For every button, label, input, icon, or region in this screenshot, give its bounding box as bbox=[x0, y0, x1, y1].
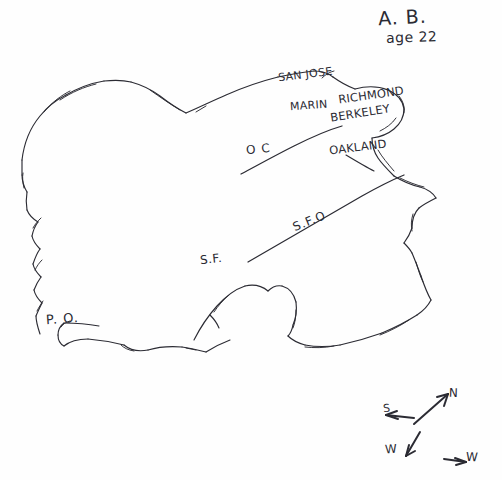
place-label-marin: MARIN bbox=[290, 98, 328, 114]
place-label-po: P. O. bbox=[46, 310, 80, 327]
place-label-oc: O C bbox=[245, 141, 271, 157]
sketch-ink-layer bbox=[0, 0, 502, 480]
coastline-east bbox=[372, 138, 436, 335]
peninsula-outline bbox=[194, 285, 296, 340]
compass-label-south: S bbox=[382, 402, 390, 416]
compass-label-north: N bbox=[449, 386, 458, 400]
sketch-map-canvas: A. B. age 22 SAN JOSE MARIN RICHMOND BER… bbox=[0, 0, 502, 480]
compass-label-east: W bbox=[466, 450, 479, 465]
coastline-west bbox=[22, 160, 43, 334]
place-label-sf: S.F. bbox=[199, 251, 223, 267]
author-age: age 22 bbox=[386, 28, 438, 46]
coastline-south bbox=[58, 321, 382, 352]
coastline-north bbox=[22, 71, 355, 160]
compass-arrow-southwest bbox=[406, 432, 420, 456]
compass-arrow-east bbox=[444, 458, 466, 465]
oakland-shore-stroke bbox=[346, 155, 374, 171]
author-initials: A. B. bbox=[377, 5, 427, 30]
compass-label-southwest: W bbox=[385, 442, 398, 457]
compass-arrow-north bbox=[414, 394, 448, 424]
compass-rose bbox=[386, 394, 466, 465]
